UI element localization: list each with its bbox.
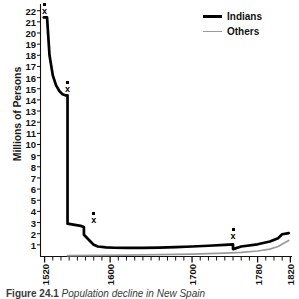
figure-caption: Figure 24.1 Population decline in New Sp… [6,288,296,299]
marker-x-icon: x [63,84,72,94]
legend-entry-indians: Indians [203,10,295,23]
legend-swatch-indians [203,15,222,18]
marker-dot-icon [232,228,235,231]
legend-entry-others: Others [203,25,295,38]
data-point-marker: x [229,228,238,241]
data-point-marker: x [40,3,49,16]
figure-caption-text: Population decline in New Spain [62,288,205,299]
marker-dot-icon [92,212,95,215]
figure-number: Figure 24.1 [6,288,59,299]
legend-label-others: Others [227,26,259,37]
marker-x-icon: x [40,6,49,16]
data-point-marker: x [89,212,98,225]
data-point-marker: x [63,81,72,94]
marker-x-icon: x [229,231,238,241]
marker-dot-icon [66,81,69,84]
legend-label-indians: Indians [227,11,262,22]
marker-x-icon: x [89,215,98,225]
marker-dot-icon [43,3,46,6]
legend-swatch-others [203,31,222,32]
chart-legend: Indians Others [203,10,295,40]
